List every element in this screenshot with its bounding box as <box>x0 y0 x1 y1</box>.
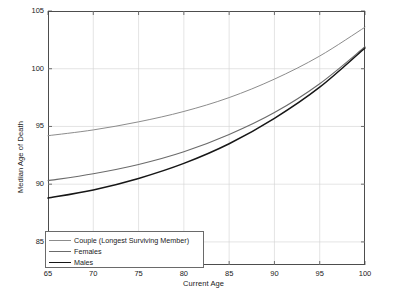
y-axis-title: Median Age of Death <box>16 121 25 193</box>
y-tick-label: 100 <box>18 64 44 73</box>
legend-swatch-females <box>49 251 71 252</box>
gridlines <box>48 11 365 265</box>
legend-label-couple: Couple (Longest Surviving Member) <box>74 236 189 245</box>
x-tick-label: 85 <box>215 269 243 278</box>
legend: Couple (Longest Surviving Member) Female… <box>45 231 204 268</box>
legend-item-couple: Couple (Longest Surviving Member) <box>48 235 189 246</box>
legend-item-females: Females <box>48 246 102 257</box>
curve-males <box>48 48 365 198</box>
data-curves <box>48 27 365 198</box>
tick-marks <box>48 11 365 265</box>
chart-figure: 859095100105 65707580859095100 Median Ag… <box>0 0 396 293</box>
x-tick-label: 95 <box>306 269 334 278</box>
legend-label-males: Males <box>74 258 93 267</box>
x-axis-title: Current Age <box>183 279 224 288</box>
legend-swatch-couple <box>49 240 71 241</box>
legend-swatch-males <box>49 262 71 263</box>
x-tick-label: 70 <box>79 269 107 278</box>
x-tick-label: 65 <box>34 269 62 278</box>
x-tick-label: 100 <box>351 269 379 278</box>
x-tick-label: 80 <box>170 269 198 278</box>
x-tick-label: 75 <box>125 269 153 278</box>
legend-label-females: Females <box>74 247 102 256</box>
y-tick-label: 105 <box>18 6 44 15</box>
curve-females <box>48 47 365 181</box>
legend-item-males: Males <box>48 257 93 268</box>
x-tick-label: 90 <box>260 269 288 278</box>
curve-couple <box>48 27 365 136</box>
y-tick-label: 85 <box>18 237 44 246</box>
